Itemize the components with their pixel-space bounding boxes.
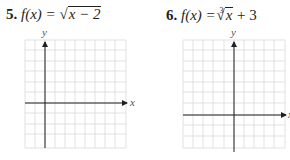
- problem-6-x-label: x: [287, 108, 290, 120]
- problem-5-y-label: y: [41, 26, 47, 38]
- graph-grids: y x y x: [0, 0, 290, 160]
- problem-5-grid: [25, 40, 126, 148]
- problem-5-x-label: x: [129, 96, 135, 108]
- problem-6-y-label: y: [230, 26, 236, 38]
